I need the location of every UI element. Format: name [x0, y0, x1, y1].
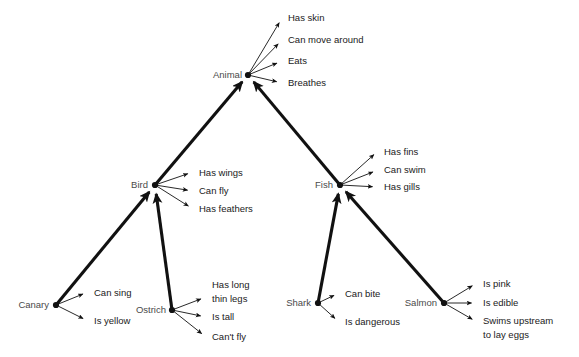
semantic-network-diagram: AnimalBirdFishCanaryOstrichSharkSalmon H…: [0, 0, 579, 357]
property-edge-animal-breathes: [250, 76, 276, 82]
node-label-ostrich[interactable]: Ostrich: [136, 304, 166, 315]
property-label-salmon-is-edible: Is edible: [483, 297, 518, 308]
property-edge-fish-has-gills: [342, 185, 372, 187]
property-edge-salmon-swims-upstream: [446, 304, 472, 319]
node-dot-animal[interactable]: [245, 72, 251, 78]
property-label-ostrich-cant-fly: Can't fly: [212, 331, 246, 342]
property-label-ostrich-is-tall: Is tall: [212, 311, 234, 322]
node-label-bird[interactable]: Bird: [131, 179, 148, 190]
node-label-fish[interactable]: Fish: [315, 179, 333, 190]
isa-edge-fish-isa-animal: [254, 82, 339, 184]
property-label-salmon-swims-upstream-line2: to lay eggs: [483, 329, 529, 340]
property-edge-shark-is-dangerous: [320, 305, 335, 319]
property-label-salmon-swims-upstream: Swims upstream: [483, 315, 553, 326]
property-label-ostrich-has-long-legs: Has long: [212, 279, 250, 290]
property-label-salmon-is-pink: Is pink: [483, 278, 511, 289]
property-label-fish-has-gills: Has gills: [384, 181, 420, 192]
property-label-shark-is-dangerous: Is dangerous: [345, 316, 400, 327]
property-label-animal-eats: Eats: [288, 55, 307, 66]
property-edge-ostrich-has-long-legs: [174, 299, 201, 309]
node-dot-bird[interactable]: [152, 182, 158, 188]
property-label-fish-can-swim: Can swim: [384, 164, 426, 175]
node-dot-salmon[interactable]: [441, 300, 447, 306]
property-label-animal-has-skin: Has skin: [288, 12, 324, 23]
node-dot-shark[interactable]: [315, 300, 321, 306]
property-label-fish-has-fins: Has fins: [384, 146, 419, 157]
isa-edge-ostrich-isa-bird: [156, 194, 172, 308]
property-edge-shark-can-bite: [320, 295, 334, 302]
property-edge-salmon-is-pink: [446, 286, 472, 302]
property-label-bird-has-feathers: Has feathers: [199, 203, 253, 214]
property-edge-fish-has-fins: [342, 155, 374, 184]
node-dot-fish[interactable]: [337, 182, 343, 188]
property-edge-canary-is-yellow: [58, 306, 83, 318]
property-label-bird-can-fly: Can fly: [199, 185, 229, 196]
node-label-animal[interactable]: Animal: [213, 69, 242, 80]
node-dots-layer: [53, 72, 447, 313]
node-label-shark[interactable]: Shark: [286, 297, 311, 308]
network-canvas: AnimalBirdFishCanaryOstrichSharkSalmon H…: [0, 0, 579, 357]
property-label-animal-breathes: Breathes: [288, 77, 326, 88]
node-label-salmon[interactable]: Salmon: [405, 297, 437, 308]
node-dot-canary[interactable]: [53, 302, 59, 308]
isa-edge-salmon-isa-fish: [346, 192, 443, 302]
node-label-canary[interactable]: Canary: [18, 299, 49, 310]
isa-edges-layer: [57, 82, 442, 308]
property-label-shark-can-bite: Can bite: [345, 288, 380, 299]
property-label-ostrich-has-long-legs-line2: thin legs: [212, 293, 248, 304]
property-label-animal-can-move-around: Can move around: [288, 34, 364, 45]
property-label-bird-has-wings: Has wings: [199, 167, 243, 178]
node-dot-ostrich[interactable]: [169, 307, 175, 313]
isa-edge-shark-isa-fish: [318, 194, 338, 301]
property-edge-fish-can-swim: [342, 172, 373, 184]
property-label-canary-is-yellow: Is yellow: [94, 315, 131, 326]
property-label-canary-can-sing: Can sing: [94, 287, 132, 298]
